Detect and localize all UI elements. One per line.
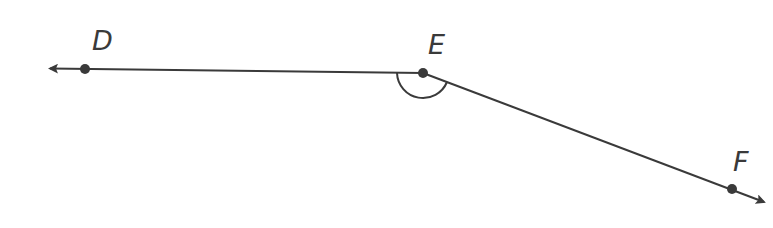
angle-diagram: D E F — [0, 0, 773, 228]
point-d — [80, 64, 90, 74]
ray-ef — [423, 73, 764, 202]
ray-ed — [50, 69, 423, 74]
label-d: D — [92, 25, 113, 56]
label-e: E — [428, 29, 445, 60]
point-e — [418, 68, 428, 78]
point-f — [727, 184, 737, 194]
label-f: F — [733, 146, 749, 177]
